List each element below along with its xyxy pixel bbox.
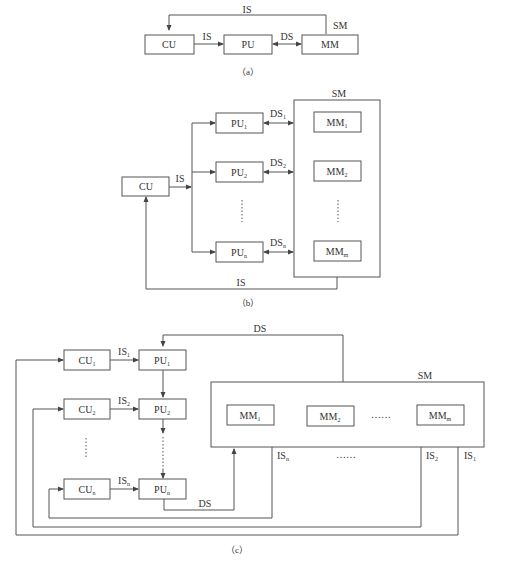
is-top-label: IS (243, 4, 252, 15)
is2-out-label: IS2 (426, 450, 438, 462)
sm-label: SM (418, 370, 433, 381)
is1-label: IS1 (118, 346, 130, 358)
pu-label: PU (242, 39, 256, 50)
ds-bottom-label: DS (199, 498, 212, 509)
mm2-label: MM2 (327, 166, 348, 178)
is1-out-label: IS1 (464, 450, 476, 462)
ds-top-line (163, 335, 343, 382)
ds-label: DS (281, 31, 294, 42)
sm-label: SM (332, 88, 347, 99)
mm-ellipsis: …… (371, 409, 391, 420)
isn-out-label: ISn (277, 450, 289, 462)
diagram-c: DS SM MM1 MM2 …… MMm CU1 IS1 PU1 CU2 IS2… (16, 323, 484, 555)
mm1-label: MM1 (327, 117, 348, 129)
caption-b: （b） (237, 298, 260, 308)
diagram-a: IS SM CU IS PU DS MM （a） (145, 4, 358, 77)
ds-top-label: DS (254, 323, 267, 334)
is2-label: IS2 (118, 395, 130, 407)
mm1-label: MM1 (240, 410, 261, 422)
cu-label: CU (139, 181, 154, 192)
mm2-label: MM2 (320, 411, 341, 423)
isn-label: ISn (118, 475, 130, 487)
architecture-diagrams: IS SM CU IS PU DS MM （a） SM CU IS PU1 PU… (0, 0, 508, 572)
dsn-label: DSn (270, 237, 286, 249)
caption-c: （c） (226, 545, 248, 555)
mm-label: MM (321, 39, 339, 50)
is-ellipsis: …… (336, 449, 356, 460)
ds1-label: DS1 (270, 108, 286, 120)
sm-label: SM (333, 20, 348, 31)
is-feedback-line (169, 15, 326, 34)
is-mid-label: IS (203, 31, 212, 42)
ds2-label: DS2 (270, 157, 286, 169)
is-out-label: IS (176, 173, 185, 184)
diagram-b: SM CU IS PU1 PU2 PUn DS1 DS2 DSn MM1 MM2… (122, 88, 380, 308)
is-back-label: IS (237, 277, 246, 288)
cu-label: CU (162, 39, 177, 50)
caption-a: （a） (237, 67, 259, 77)
